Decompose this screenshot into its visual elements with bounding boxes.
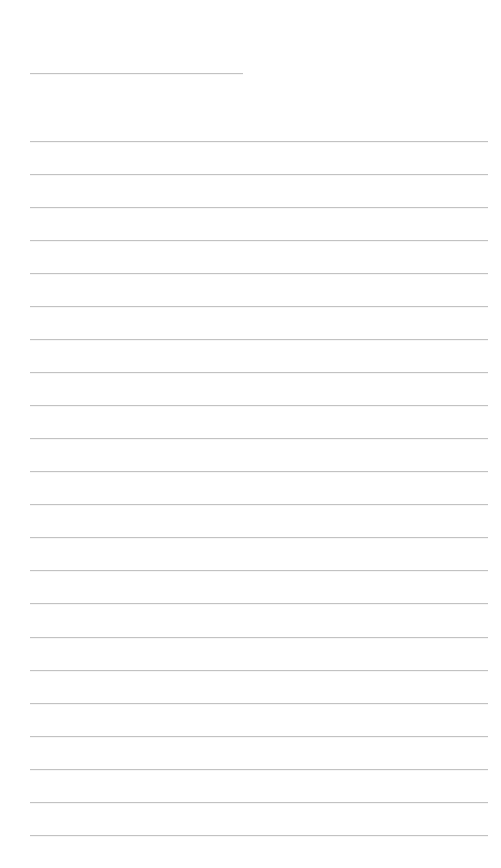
ruled-line [30, 835, 488, 836]
ruled-line [30, 570, 488, 571]
ruled-line [30, 405, 488, 406]
ruled-line [30, 174, 488, 175]
ruled-line [30, 637, 488, 638]
ruled-line [30, 537, 488, 538]
ruled-line [30, 141, 488, 142]
ruled-line [30, 703, 488, 704]
ruled-line [30, 438, 488, 439]
ruled-line [30, 73, 243, 74]
ruled-line [30, 736, 488, 737]
ruled-line [30, 769, 488, 770]
ruled-line [30, 504, 488, 505]
ruled-line [30, 273, 488, 274]
ruled-line [30, 207, 488, 208]
lined-page [0, 0, 501, 868]
ruled-line [30, 471, 488, 472]
ruled-line [30, 372, 488, 373]
ruled-line [30, 339, 488, 340]
ruled-line [30, 603, 488, 604]
ruled-line [30, 670, 488, 671]
ruled-line [30, 306, 488, 307]
ruled-line [30, 240, 488, 241]
page-surface [0, 0, 501, 868]
ruled-line [30, 802, 488, 803]
